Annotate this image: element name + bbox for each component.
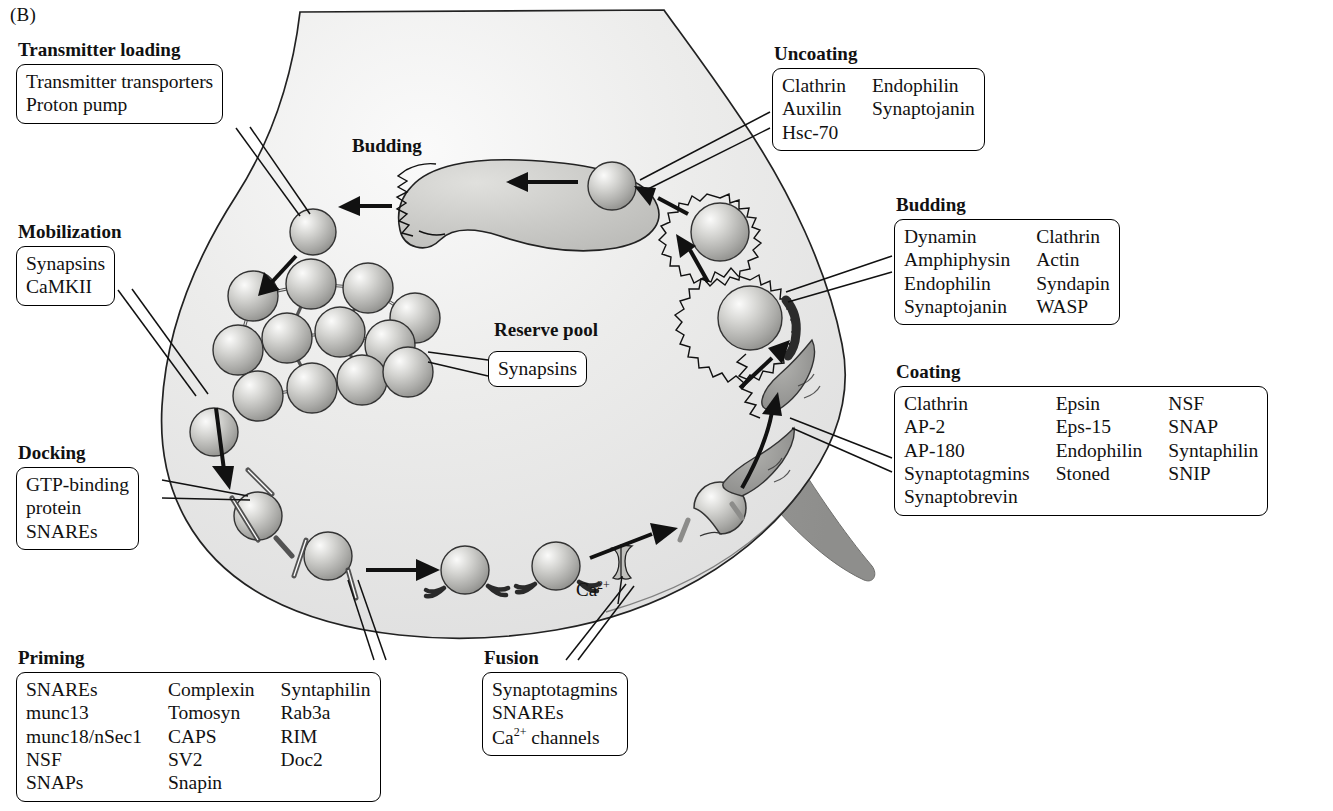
callout-row: SNAREs [26, 520, 129, 543]
callout-box-priming: SNAREsComplexinSyntaphilinmunc13TomosynR… [16, 672, 381, 802]
callout-item: Proton pump [26, 93, 213, 116]
callout-item: Snapin [168, 771, 281, 794]
callout-row: GTP-binding [26, 473, 129, 496]
callout-item: NSF [26, 748, 168, 771]
callout-item: Synaptojanin [872, 97, 975, 120]
callout-docking: DockingGTP-bindingproteinSNAREs [16, 443, 139, 554]
callout-item: Syntaphilin [1168, 439, 1258, 462]
callout-row: ClathrinEpsinNSF [904, 392, 1258, 415]
callout-item: Clathrin [782, 74, 872, 97]
callout-row: Transmitter transporters [26, 70, 213, 93]
callout-box-mobilization: SynapsinsCaMKII [16, 246, 115, 306]
callout-item: Synapsins [26, 252, 105, 275]
callout-fusion: FusionSynaptotagminsSNAREsCa2+ channels [482, 648, 628, 760]
callout-item: Transmitter transporters [26, 70, 213, 93]
callout-caption-priming: Priming [18, 648, 381, 669]
callout-priming: PrimingSNAREsComplexinSyntaphilinmunc13T… [16, 648, 381, 806]
callout-caption-mobilization: Mobilization [18, 222, 121, 243]
callout-item: RIM [281, 725, 371, 748]
callout-item: CaMKII [26, 275, 105, 298]
callout-item: SNAP [1168, 415, 1258, 438]
callout-row: protein [26, 496, 129, 519]
callout-item: SV2 [168, 748, 281, 771]
callout-row: SNAREsComplexinSyntaphilin [26, 678, 371, 701]
figure-canvas: (B) Budding Reserve pool Ca2+ Synapsins … [0, 0, 1333, 811]
callout-row: NSFSV2Doc2 [26, 748, 371, 771]
panel-letter: (B) [10, 4, 36, 26]
callout-row: AP-2Eps-15SNAP [904, 415, 1258, 438]
callout-mobilization: MobilizationSynapsinsCaMKII [16, 222, 121, 310]
callout-item: protein [26, 496, 129, 519]
callout-item: Doc2 [281, 748, 371, 771]
reserve-pool-label: Reserve pool [494, 319, 598, 341]
callout-item: Tomosyn [168, 701, 281, 724]
callout-item: SNAPs [26, 771, 168, 794]
callout-transmitter-loading: Transmitter loadingTransmitter transport… [16, 40, 223, 128]
callout-item: Stoned [1056, 462, 1169, 485]
budding-inner-label: Budding [352, 135, 422, 157]
calcium-label: Ca2+ [576, 578, 610, 601]
callout-item: AP-180 [904, 439, 1056, 462]
callout-box-budding: DynaminClathrinAmphiphysinActinEndophili… [894, 219, 1120, 326]
callout-row: SynaptojaninWASP [904, 295, 1110, 318]
callout-caption-budding: Budding [896, 195, 1120, 216]
callout-item: SNAREs [26, 520, 129, 543]
callout-item: munc18/nSec1 [26, 725, 168, 748]
callout-item [872, 121, 975, 144]
callout-item: AP-2 [904, 415, 1056, 438]
callout-row: AmphiphysinActin [904, 248, 1110, 271]
callout-item: Synaptotagmins [904, 462, 1056, 485]
callout-item: Clathrin [904, 392, 1056, 415]
callout-row: SNAREs [492, 701, 618, 724]
callout-item: Eps-15 [1056, 415, 1169, 438]
callout-row: Synaptobrevin [904, 485, 1258, 508]
callout-item [281, 771, 371, 794]
callout-item: Endophilin [872, 74, 975, 97]
callout-row: AuxilinSynaptojanin [782, 97, 975, 120]
callout-item: WASP [1036, 295, 1110, 318]
callout-box-coating: ClathrinEpsinNSFAP-2Eps-15SNAPAP-180Endo… [894, 386, 1268, 516]
calcium-label-sup: 2+ [597, 578, 610, 592]
callout-box-transmitter-loading: Transmitter transportersProton pump [16, 64, 223, 124]
callout-row: Synaptotagmins [492, 678, 618, 701]
callout-caption-docking: Docking [18, 443, 139, 464]
callout-uncoating: UncoatingClathrinEndophilinAuxilinSynapt… [772, 44, 985, 155]
callout-caption-uncoating: Uncoating [774, 44, 985, 65]
callout-row: Synapsins [26, 252, 105, 275]
callout-item: Syndapin [1036, 272, 1110, 295]
callout-item: Clathrin [1036, 225, 1110, 248]
callout-item: Auxilin [782, 97, 872, 120]
callout-item: Amphiphysin [904, 248, 1036, 271]
callout-caption-transmitter-loading: Transmitter loading [18, 40, 223, 61]
callout-row: Proton pump [26, 93, 213, 116]
callout-row: Hsc-70 [782, 121, 975, 144]
calcium-label-text: Ca [576, 579, 597, 600]
callout-item: Synaptobrevin [904, 485, 1056, 508]
callout-row: CaMKII [26, 275, 105, 298]
callout-item: Endophilin [904, 272, 1036, 295]
callout-item: SNAREs [26, 678, 168, 701]
callout-box-uncoating: ClathrinEndophilinAuxilinSynaptojaninHsc… [772, 68, 985, 151]
callout-item: Epsin [1056, 392, 1169, 415]
callout-item: Endophilin [1056, 439, 1169, 462]
reserve-pool-item: Synapsins [498, 357, 577, 380]
callout-item: SNIP [1168, 462, 1258, 485]
callout-row: ClathrinEndophilin [782, 74, 975, 97]
callout-caption-fusion: Fusion [484, 648, 628, 669]
callout-row: AP-180EndophilinSyntaphilin [904, 439, 1258, 462]
callout-item: munc13 [26, 701, 168, 724]
callout-item: NSF [1168, 392, 1258, 415]
callout-row: EndophilinSyndapin [904, 272, 1110, 295]
callout-item: CAPS [168, 725, 281, 748]
callout-item: Complexin [168, 678, 281, 701]
reserve-pool-box: Synapsins [488, 351, 587, 387]
callout-box-fusion: SynaptotagminsSNAREsCa2+ channels [482, 672, 628, 756]
callout-row: SNAPsSnapin [26, 771, 371, 794]
callout-item: SNAREs [492, 701, 618, 724]
callout-reserve-pool-synapsins: Synapsins [488, 351, 587, 391]
callout-row: munc18/nSec1CAPSRIM [26, 725, 371, 748]
callout-coating: CoatingClathrinEpsinNSFAP-2Eps-15SNAPAP-… [894, 362, 1268, 520]
callout-item [1056, 485, 1169, 508]
callout-item [1168, 485, 1258, 508]
callout-item: Synaptotagmins [492, 678, 618, 701]
